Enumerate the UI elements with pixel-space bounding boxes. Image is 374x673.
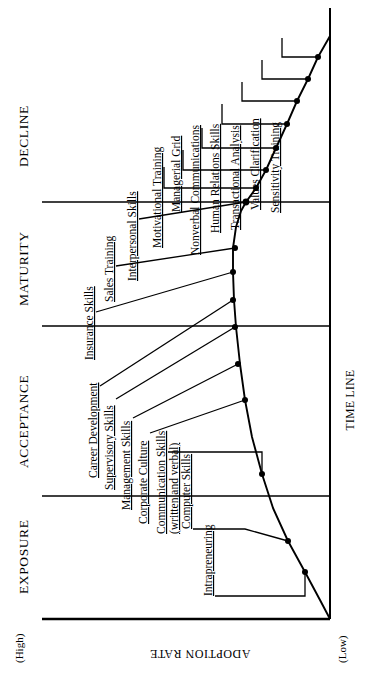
stage-label-maturity: MATURITY (16, 231, 31, 306)
callout-label-values-clarification: Values Clarification (249, 118, 261, 210)
leader-career-development (100, 300, 233, 386)
callout-label-human-relations-skills: Human Relations Skills (209, 123, 221, 233)
axis-title-adoption-rate: ADOPTION RATE (150, 647, 251, 661)
callout-label-sensitivity-training: Sensitivity Training (269, 122, 282, 213)
callout-label-management-skills: Management Skills (120, 420, 133, 510)
leader-intrapreneuring (215, 572, 305, 596)
stage-label-exposure: EXPOSURE (16, 519, 31, 594)
leader-insurance-skills (96, 272, 233, 312)
callout-label-interpersonal-skills: Interpersonal Skills (126, 191, 139, 281)
leader-management-skills (133, 364, 238, 418)
axis-label-high: (High) (13, 633, 26, 663)
callout-label-insurance-skills: Insurance Skills (83, 286, 95, 360)
leader-corporate-culture (150, 400, 245, 433)
leader-transactional-analysis (242, 82, 297, 101)
chart-figure: EXPOSURE ACCEPTANCE MATURITY DECLINE (Hi… (0, 0, 374, 673)
callout-label-communication-skills-sub: (written and verbal) (168, 443, 181, 534)
chart-svg: EXPOSURE ACCEPTANCE MATURITY DECLINE (Hi… (0, 0, 374, 673)
callout-label-managerial-grid: Managerial Grid (170, 135, 183, 212)
callout-leader-lines (96, 38, 318, 596)
stage-label-acceptance: ACCEPTANCE (16, 375, 31, 468)
callout-label-transactional-analysis: Transactional Analysis (229, 125, 242, 230)
axis-title-time-line: TIME LINE (344, 370, 356, 431)
callout-label-sales-training: Sales Training (103, 236, 116, 302)
callout-label-computer-skills: Computer Skills (180, 453, 193, 529)
callout-label-supervisory-skills: Supervisory Skills (103, 405, 116, 490)
leader-values-clarification (262, 60, 308, 79)
callout-label-career-development: Career Development (87, 382, 100, 478)
callout-label-motivational-training: Motivational Training (151, 146, 164, 248)
callout-label-corporate-culture: Corporate Culture (137, 441, 150, 524)
leader-sensitivity-training (282, 38, 318, 57)
stage-label-decline: DECLINE (16, 105, 31, 167)
callout-label-communication-skills: Communication Skills (155, 430, 167, 534)
axis-label-low: (Low) (336, 635, 349, 663)
callout-label-nonverbal-communications: Nonverbal Communications (189, 124, 201, 255)
callout-label-intrapreneuring: Intrapreneuring (202, 524, 215, 596)
